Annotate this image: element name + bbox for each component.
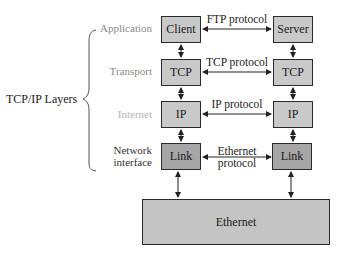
layer-label-application: Application <box>100 22 152 34</box>
right-ip-box: IP <box>273 101 313 128</box>
left-tcp-box: TCP <box>161 59 201 86</box>
layer-label-network: Network <box>114 144 153 156</box>
server-box: Server <box>273 16 313 43</box>
brace-icon <box>83 30 96 171</box>
tcp-protocol-label: TCP protocol <box>203 56 271 68</box>
left-link-box: Link <box>161 143 201 170</box>
right-tcp-box: TCP <box>273 59 313 86</box>
layer-label-network-interface: Network interface <box>114 144 153 168</box>
ethernet-protocol-line1: Ethernet <box>203 145 271 157</box>
right-link-box: Link <box>272 143 312 170</box>
left-ip-box: IP <box>161 101 201 128</box>
ftp-protocol-label: FTP protocol <box>203 13 271 25</box>
ip-protocol-label: IP protocol <box>203 98 271 110</box>
ethernet-protocol-label: Ethernet protocol <box>203 145 271 169</box>
layer-label-internet: Internet <box>118 108 152 120</box>
layer-label-transport: Transport <box>110 65 152 77</box>
client-box: Client <box>161 16 201 43</box>
ethernet-protocol-line2: protocol <box>203 157 271 169</box>
ethernet-network-box: Ethernet <box>142 199 330 245</box>
layer-label-interface: interface <box>114 156 153 168</box>
